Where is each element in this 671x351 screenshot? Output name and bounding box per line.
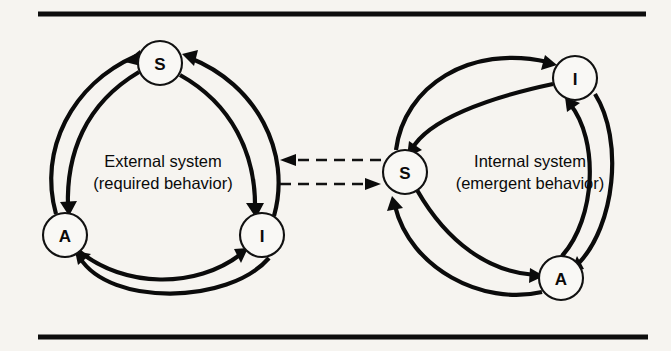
internal-system-label-line1: Internal system	[474, 152, 586, 170]
node-external-i[interactable]: I	[240, 213, 284, 257]
node-label: A	[59, 227, 71, 246]
edge-coupling-internal-to-external	[280, 154, 381, 166]
edge-external-a-to-i	[79, 248, 248, 280]
edge-coupling-external-to-internal	[280, 178, 381, 190]
edge-internal-i-to-s	[407, 84, 553, 157]
edge-external-s-to-a	[60, 72, 139, 216]
edge-external-s-to-i	[180, 75, 264, 218]
arrowhead-external-i-to-s	[182, 50, 198, 66]
internal-system-loop: S I A Internal system (emergent behavior…	[383, 55, 612, 300]
node-external-a[interactable]: A	[43, 213, 87, 257]
arrowhead-coupling-right	[365, 178, 381, 190]
figure-canvas: S A I External system (required behavior…	[0, 0, 671, 351]
arrowhead-internal-a-to-s	[387, 196, 403, 211]
node-internal-s[interactable]: S	[383, 150, 427, 194]
external-system-label-line2: (required behavior)	[93, 174, 232, 192]
node-internal-a[interactable]: A	[539, 256, 583, 300]
node-internal-i[interactable]: I	[553, 56, 597, 100]
node-label: I	[260, 227, 265, 246]
internal-system-label-line2: (emergent behavior)	[456, 174, 605, 192]
node-label: I	[573, 70, 578, 89]
coupling-arrows	[280, 154, 381, 190]
system-loops-diagram: S A I External system (required behavior…	[0, 0, 671, 351]
external-system-label-line1: External system	[104, 152, 221, 170]
external-system-loop: S A I External system (required behavior…	[43, 41, 284, 294]
node-label: S	[399, 164, 410, 183]
node-label: A	[555, 270, 567, 289]
arrowhead-coupling-left	[280, 154, 296, 166]
node-external-s[interactable]: S	[138, 41, 182, 85]
node-label: S	[154, 55, 165, 74]
